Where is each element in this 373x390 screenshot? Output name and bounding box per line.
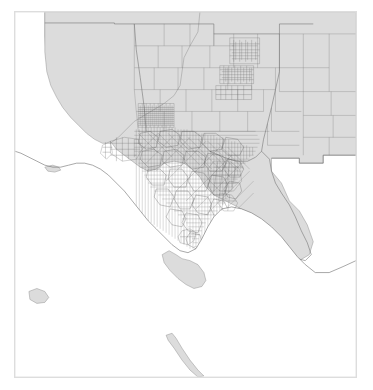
figure-title	[0, 0, 373, 8]
map-canvas[interactable]	[15, 12, 356, 377]
map-frame[interactable]	[14, 11, 357, 378]
map-figure	[0, 0, 373, 390]
